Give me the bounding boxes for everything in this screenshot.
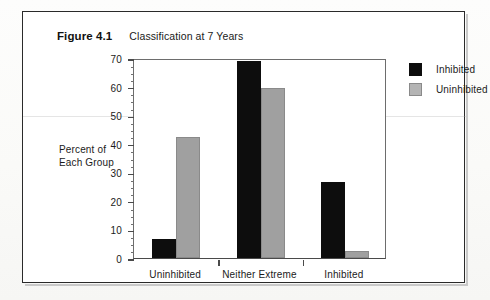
legend-label-inhibited: Inhibited xyxy=(436,64,475,75)
legend-swatch-uninhibited-icon xyxy=(409,83,422,96)
y-axis-tick-major xyxy=(128,117,134,118)
y-axis-tick-major xyxy=(128,231,134,232)
bar-inhibited-neither-extreme xyxy=(237,61,261,258)
y-axis-tick-label: 60 xyxy=(96,82,122,93)
y-axis-tick-minor xyxy=(131,81,135,82)
bar-uninhibited-uninhibited xyxy=(176,137,200,258)
figure-caption: Figure 4.1 Classification at 7 Years xyxy=(57,30,243,42)
figure-frame-shadow-bottom xyxy=(25,284,468,286)
y-axis-tick-minor xyxy=(131,67,135,68)
y-axis-tick-minor xyxy=(131,138,135,139)
y-axis-tick-label: 50 xyxy=(96,111,122,122)
y-axis-tick-major xyxy=(128,259,134,260)
y-axis-tick-minor xyxy=(131,188,135,189)
bar-inhibited-uninhibited xyxy=(152,239,176,258)
figure-number: Figure 4.1 xyxy=(57,30,112,42)
bar-uninhibited-inhibited xyxy=(345,251,369,258)
x-axis-tick xyxy=(218,260,219,266)
y-axis-tick-major xyxy=(128,59,134,60)
legend-item-uninhibited: Uninhibited xyxy=(409,80,488,98)
legend-swatch-inhibited-icon xyxy=(409,63,422,76)
y-axis-tick-label: 0 xyxy=(96,254,122,265)
figure-title: Classification at 7 Years xyxy=(129,30,243,42)
y-axis-tick-major xyxy=(128,202,134,203)
y-axis-tick-minor xyxy=(131,245,135,246)
y-axis-tick-minor xyxy=(131,238,135,239)
legend-label-uninhibited: Uninhibited xyxy=(436,84,488,95)
x-axis-tick-label: Neither Extreme xyxy=(222,269,297,280)
plot-inner xyxy=(134,60,385,258)
y-axis-tick-minor xyxy=(131,210,135,211)
bar-inhibited-inhibited xyxy=(321,182,345,258)
figure-frame: Figure 4.1 Classification at 7 Years Per… xyxy=(22,11,465,283)
y-axis-tick-label: 10 xyxy=(96,225,122,236)
y-axis-tick-minor xyxy=(131,152,135,153)
x-axis-tick-label: Uninhibited xyxy=(149,269,201,280)
y-axis-tick-minor xyxy=(131,95,135,96)
chart-legend: Inhibited Uninhibited xyxy=(409,60,488,100)
y-axis-tick-major xyxy=(128,174,134,175)
figure-frame-shadow-right xyxy=(466,14,468,286)
y-axis-tick-minor xyxy=(131,160,135,161)
y-axis-tick-minor xyxy=(131,131,135,132)
y-axis-tick-minor xyxy=(131,110,135,111)
y-axis-tick-minor xyxy=(131,74,135,75)
y-axis-tick-label: 20 xyxy=(96,196,122,207)
y-axis-tick-minor xyxy=(131,102,135,103)
legend-item-inhibited: Inhibited xyxy=(409,60,488,78)
y-axis-tick-minor xyxy=(131,181,135,182)
x-axis-tick-label: Inhibited xyxy=(324,269,363,280)
y-axis-tick-major xyxy=(128,145,134,146)
y-axis-tick-minor xyxy=(131,224,135,225)
y-axis-tick-label: 40 xyxy=(96,139,122,150)
y-axis-tick-minor xyxy=(131,167,135,168)
y-axis-tick-label: 70 xyxy=(96,54,122,65)
plot-area xyxy=(133,59,386,259)
y-axis-tick-minor xyxy=(131,195,135,196)
y-axis-tick-minor xyxy=(131,124,135,125)
x-axis-tick xyxy=(303,260,304,266)
bar-uninhibited-neither-extreme xyxy=(261,88,285,258)
y-axis-tick-major xyxy=(128,88,134,89)
y-axis-tick-minor xyxy=(131,217,135,218)
y-axis-tick-label: 30 xyxy=(96,168,122,179)
y-axis-tick-minor xyxy=(131,252,135,253)
